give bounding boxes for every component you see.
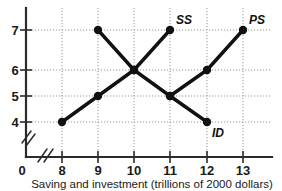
ss-point-9-5 bbox=[94, 92, 102, 100]
y-tick-label-6: 6 bbox=[11, 63, 18, 78]
ps-point-13-7 bbox=[239, 26, 247, 34]
x-axis-tick-labels: 0 8 9 10 11 12 13 bbox=[18, 163, 250, 178]
ss-line bbox=[62, 30, 170, 122]
ss-point-8-4 bbox=[58, 118, 66, 126]
y-tick-label-5: 5 bbox=[11, 89, 18, 104]
curve-labels: SS PS ID bbox=[176, 13, 265, 140]
horizontal-gridlines bbox=[26, 30, 272, 122]
series-ps bbox=[166, 26, 247, 100]
x-tick-label-9: 9 bbox=[94, 163, 101, 178]
y-tick-label-7: 7 bbox=[11, 23, 18, 38]
x-tick-label-12: 12 bbox=[200, 163, 214, 178]
y-axis-tick-labels: 7 6 5 4 bbox=[11, 23, 19, 130]
ps-point-12-6 bbox=[203, 66, 211, 74]
id-point-12-4 bbox=[203, 118, 211, 126]
series-id bbox=[94, 26, 211, 126]
id-point-10-6 bbox=[130, 66, 138, 74]
id-curve-label: ID bbox=[212, 126, 224, 140]
chart-figure: 7 6 5 4 0 8 9 10 11 12 13 bbox=[0, 0, 282, 191]
series-ss bbox=[58, 26, 174, 126]
ss-curve-label: SS bbox=[176, 13, 192, 27]
y-tick-label-4: 4 bbox=[11, 115, 19, 130]
ps-point-11-5 bbox=[166, 92, 174, 100]
x-tick-label-8: 8 bbox=[58, 163, 65, 178]
id-line bbox=[98, 30, 207, 122]
ss-point-11-7 bbox=[166, 26, 174, 34]
ps-line bbox=[170, 30, 243, 96]
x-tick-label-13: 13 bbox=[236, 163, 250, 178]
economics-line-chart: 7 6 5 4 0 8 9 10 11 12 13 bbox=[0, 0, 282, 191]
x-axis-caption: Saving and investment (trillions of 2000… bbox=[31, 178, 273, 190]
origin-label: 0 bbox=[18, 163, 25, 178]
ps-curve-label: PS bbox=[249, 13, 265, 27]
x-tick-label-11: 11 bbox=[163, 163, 177, 178]
x-tick-label-10: 10 bbox=[127, 163, 141, 178]
id-point-9-7 bbox=[94, 26, 102, 34]
